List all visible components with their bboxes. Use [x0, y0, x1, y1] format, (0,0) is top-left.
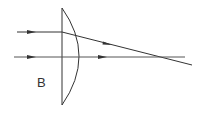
arrow-icon [27, 30, 36, 34]
axis-ray [14, 55, 185, 59]
arrow-icon [103, 42, 113, 46]
upper-ray [17, 30, 192, 65]
upper-ray-line [17, 32, 192, 65]
diagram-label: B [37, 75, 46, 90]
ray-diagram: B [0, 0, 200, 120]
arrow-icon [27, 55, 36, 59]
arrow-icon [98, 55, 107, 59]
